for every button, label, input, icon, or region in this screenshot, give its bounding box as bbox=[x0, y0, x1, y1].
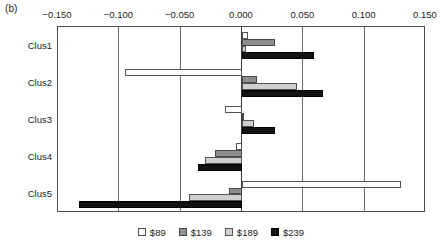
bar-clus2-usd189 bbox=[242, 83, 297, 90]
chart-legend: $89$139$189$239 bbox=[0, 222, 442, 242]
legend-label: $239 bbox=[283, 227, 304, 238]
bar-clus1-usd89 bbox=[242, 32, 248, 39]
bar-clus2-usd239 bbox=[242, 90, 323, 97]
y-category-label-clus5: Clus5 bbox=[28, 188, 52, 199]
legend-swatch-icon bbox=[138, 228, 146, 236]
y-category-label-clus3: Clus3 bbox=[28, 114, 52, 125]
bar-clus5-usd139 bbox=[229, 188, 242, 195]
legend-swatch-icon bbox=[271, 228, 279, 236]
legend-label: $189 bbox=[237, 227, 258, 238]
bar-clus3-usd189 bbox=[242, 120, 254, 127]
legend-entry-usd239: $239 bbox=[271, 227, 304, 238]
x-tick-label: −0.100 bbox=[104, 9, 133, 20]
bar-clus3-usd239 bbox=[242, 127, 275, 134]
y-category-label-clus2: Clus2 bbox=[28, 76, 52, 87]
x-tick-label: 0.100 bbox=[352, 9, 376, 20]
x-tick-label: −0.050 bbox=[165, 9, 194, 20]
y-axis-category-labels: Clus1Clus2Clus3Clus4Clus5 bbox=[0, 26, 57, 212]
legend-swatch-icon bbox=[225, 228, 233, 236]
bar-clus3-usd89 bbox=[225, 106, 242, 113]
legend-swatch-icon bbox=[179, 228, 187, 236]
bar-clus1-usd189 bbox=[242, 46, 246, 53]
bar-clus4-usd239 bbox=[198, 164, 242, 171]
x-tick-label: 0.050 bbox=[290, 9, 314, 20]
legend-entry-usd139: $139 bbox=[179, 227, 212, 238]
legend-label: $139 bbox=[191, 227, 212, 238]
bar-clus2-usd89 bbox=[125, 69, 242, 76]
bar-clus5-usd89 bbox=[242, 181, 401, 188]
legend-entry-usd89: $89 bbox=[138, 227, 166, 238]
gridline bbox=[180, 27, 181, 211]
y-category-label-clus4: Clus4 bbox=[28, 151, 52, 162]
gridline bbox=[118, 27, 119, 211]
bar-clus1-usd239 bbox=[242, 52, 314, 59]
x-tick-label: 0.150 bbox=[413, 9, 437, 20]
bar-clus4-usd189 bbox=[205, 157, 242, 164]
legend-entry-usd189: $189 bbox=[225, 227, 258, 238]
legend-label: $89 bbox=[150, 227, 166, 238]
x-tick-label: 0.000 bbox=[229, 9, 253, 20]
bar-clus4-usd89 bbox=[236, 143, 242, 150]
bar-clus5-usd239 bbox=[79, 201, 242, 208]
bar-clus2-usd139 bbox=[242, 76, 257, 83]
bar-clus5-usd189 bbox=[189, 194, 242, 201]
bar-clus3-usd139 bbox=[242, 113, 244, 120]
bar-clus1-usd139 bbox=[242, 39, 275, 46]
bar-clus4-usd139 bbox=[215, 150, 242, 157]
plot-area bbox=[57, 26, 425, 212]
y-category-label-clus1: Clus1 bbox=[28, 39, 52, 50]
x-tick-label: −0.150 bbox=[42, 9, 71, 20]
x-axis-tick-labels: −0.150−0.100−0.0500.0000.0500.1000.150 bbox=[0, 9, 442, 23]
bar-chart-figure: (b) −0.150−0.100−0.0500.0000.0500.1000.1… bbox=[0, 0, 442, 245]
